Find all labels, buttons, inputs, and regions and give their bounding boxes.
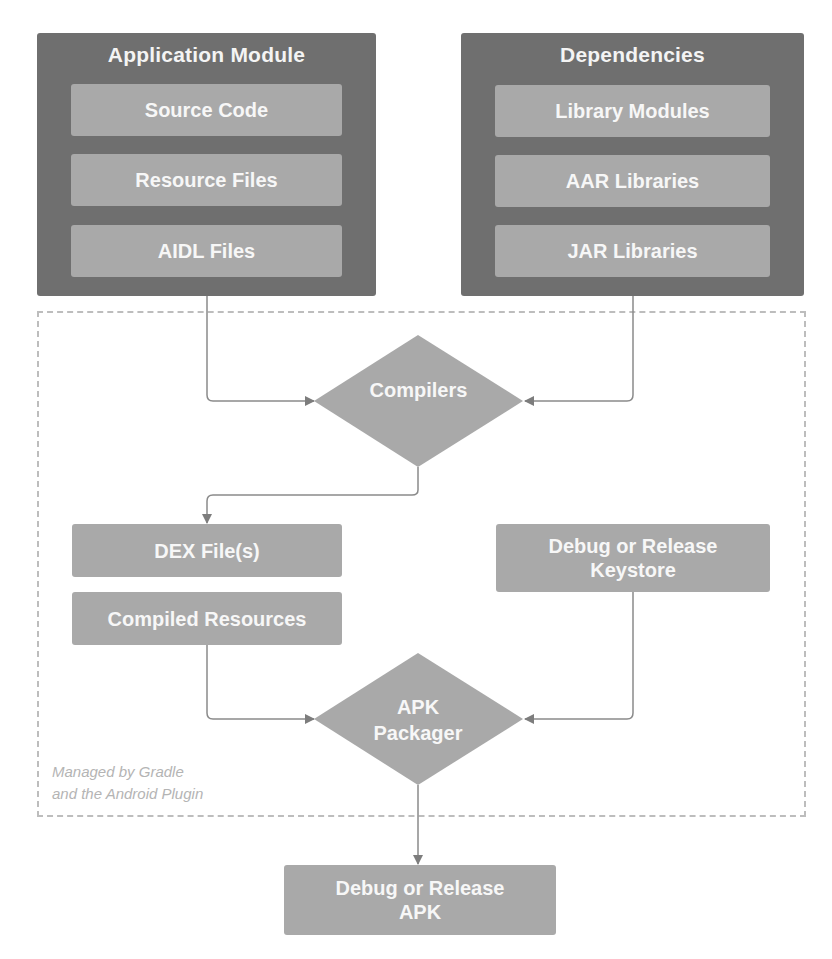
gradle-managed-note-line1: Managed by Gradle: [52, 761, 292, 783]
apk-packager-label: APK Packager: [340, 690, 496, 750]
jar-libraries-box: JAR Libraries: [495, 225, 770, 277]
gradle-managed-note: Managed by Gradle and the Android Plugin: [52, 761, 292, 805]
library-modules-box: Library Modules: [495, 85, 770, 137]
compiled-resources-label: Compiled Resources: [108, 607, 307, 631]
application-module-title: Application Module: [37, 43, 376, 67]
resource-files-label: Resource Files: [135, 168, 277, 192]
aar-libraries-label: AAR Libraries: [566, 169, 699, 193]
aar-libraries-box: AAR Libraries: [495, 155, 770, 207]
arrow-keystore-to-packager: [525, 592, 633, 719]
compiled-resources-box: Compiled Resources: [72, 592, 342, 645]
keystore-label: Debug or Release Keystore: [526, 534, 740, 582]
resource-files-box: Resource Files: [71, 154, 342, 206]
source-code-label: Source Code: [145, 98, 268, 122]
dependencies-title: Dependencies: [461, 43, 804, 67]
arrow-compilers-to-dex: [207, 467, 418, 523]
source-code-box: Source Code: [71, 84, 342, 136]
gradle-managed-note-line2: and the Android Plugin: [52, 783, 292, 805]
compilers-label: Compilers: [314, 370, 523, 410]
dex-files-box: DEX File(s): [72, 524, 342, 577]
aidl-files-label: AIDL Files: [158, 239, 255, 263]
final-apk-label: Debug or Release APK: [324, 876, 516, 924]
jar-libraries-label: JAR Libraries: [567, 239, 697, 263]
arrow-deps-to-compilers: [525, 296, 633, 401]
arrow-app-to-compilers: [207, 296, 314, 401]
library-modules-label: Library Modules: [555, 99, 709, 123]
arrow-resources-to-packager: [207, 645, 314, 719]
apk-packager-text: APK Packager: [360, 694, 476, 746]
dex-files-label: DEX File(s): [154, 539, 260, 563]
final-apk-box: Debug or Release APK: [284, 865, 556, 935]
keystore-box: Debug or Release Keystore: [496, 524, 770, 592]
aidl-files-box: AIDL Files: [71, 225, 342, 277]
